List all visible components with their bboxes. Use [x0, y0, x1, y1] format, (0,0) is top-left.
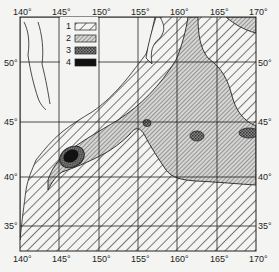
lat-label: 45°: [4, 117, 18, 127]
legend-swatch-2: [75, 35, 96, 42]
lon-label: 165°: [210, 7, 229, 17]
zone-3-patch-a: [143, 120, 151, 127]
legend-swatch-3: [75, 47, 96, 54]
zone-3-patch-b: [190, 131, 204, 141]
legend-label-1: 1: [66, 21, 71, 31]
lat-label: 35°: [4, 221, 18, 231]
lat-label: 35°: [258, 221, 272, 231]
lat-label: 40°: [258, 172, 272, 182]
legend: 1 2 3 4: [60, 17, 98, 69]
lon-label: 160°: [170, 254, 189, 264]
lon-label: 170°: [249, 7, 268, 17]
lon-label: 140°: [13, 254, 32, 264]
lon-labels-top: 140° 145° 150° 155° 160° 165° 170°: [13, 7, 268, 17]
lat-label: 50°: [4, 58, 18, 68]
lat-label: 50°: [258, 58, 272, 68]
lat-labels-left: 50° 45° 40° 35°: [4, 58, 18, 231]
lon-label: 155°: [131, 254, 150, 264]
lon-labels-bottom: 140° 145° 150° 155° 160° 165° 170°: [13, 254, 268, 264]
legend-swatch-1: [75, 23, 96, 30]
lon-label: 165°: [210, 254, 229, 264]
lat-label: 40°: [4, 172, 18, 182]
map-figure: 1 2 3 4 140° 145° 150° 155° 160° 165° 17…: [0, 0, 279, 272]
legend-label-4: 4: [66, 57, 71, 67]
lat-labels-right: 50° 45° 40° 35°: [258, 58, 272, 231]
lon-label: 155°: [131, 7, 150, 17]
lon-label: 145°: [52, 254, 71, 264]
lat-label: 45°: [258, 117, 272, 127]
lon-label: 160°: [170, 7, 189, 17]
lon-label: 150°: [92, 7, 111, 17]
legend-swatch-4: [75, 59, 96, 66]
legend-label-2: 2: [66, 33, 71, 43]
lon-label: 140°: [13, 7, 32, 17]
lon-label: 145°: [52, 7, 71, 17]
legend-label-3: 3: [66, 45, 71, 55]
lon-label: 170°: [249, 254, 268, 264]
lon-label: 150°: [92, 254, 111, 264]
